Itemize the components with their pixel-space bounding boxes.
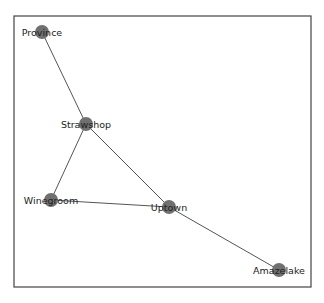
node-label-amazelake: Amazelake — [253, 265, 305, 276]
node-label-province: Province — [22, 27, 63, 38]
edge-province-strawshop — [42, 32, 86, 124]
edge-strawshop-winegroom — [51, 124, 86, 200]
edges-layer — [42, 32, 279, 270]
edge-uptown-amazelake — [169, 207, 279, 270]
plot-frame — [14, 16, 311, 287]
edge-strawshop-uptown — [86, 124, 169, 207]
network-graph: ProvinceStrawshopWinegroomUptownAmazelak… — [0, 0, 324, 303]
nodes-layer — [35, 25, 286, 277]
node-label-winegroom: Winegroom — [24, 195, 78, 206]
node-label-strawshop: Strawshop — [61, 119, 111, 130]
node-label-uptown: Uptown — [151, 202, 187, 213]
labels-layer: ProvinceStrawshopWinegroomUptownAmazelak… — [22, 27, 305, 276]
